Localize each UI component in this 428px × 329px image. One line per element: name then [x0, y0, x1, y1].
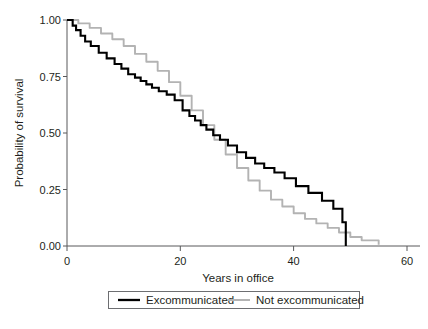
x-tick-label-20: 20: [174, 255, 186, 267]
x-tick-label-60: 60: [401, 255, 413, 267]
series-line-not-excommunicated: [67, 20, 379, 245]
y-tick-label-000: 0.00: [40, 240, 61, 252]
y-axis-tick-labels: 1.00 0.75 0.50 0.25 0.00: [40, 14, 61, 252]
y-tick-label-025: 0.25: [40, 184, 61, 196]
x-axis-title: Years in office: [202, 272, 274, 284]
y-axis-title: Probability of survival: [13, 79, 25, 188]
x-axis: [67, 246, 420, 251]
chart-legend: Excommunicated Not excommunicated: [109, 292, 365, 309]
legend-label-excommunicated: Excommunicated: [146, 294, 234, 306]
x-tick-label-0: 0: [64, 255, 70, 267]
x-axis-tick-labels: 0 20 40 60: [64, 255, 413, 267]
y-tick-label-075: 0.75: [40, 71, 61, 83]
y-tick-label-050: 0.50: [40, 127, 61, 139]
series-line-excommunicated: [67, 20, 346, 246]
y-tick-label-1: 1.00: [40, 14, 61, 26]
x-tick-label-40: 40: [287, 255, 299, 267]
survival-chart-figure: 1.00 0.75 0.50 0.25 0.00 0 20 40: [0, 0, 428, 329]
legend-label-not-excommunicated: Not excommunicated: [256, 294, 364, 306]
y-axis: [63, 20, 67, 246]
plot-series-group: [67, 20, 379, 246]
chart-canvas: 1.00 0.75 0.50 0.25 0.00 0 20 40: [0, 0, 428, 329]
